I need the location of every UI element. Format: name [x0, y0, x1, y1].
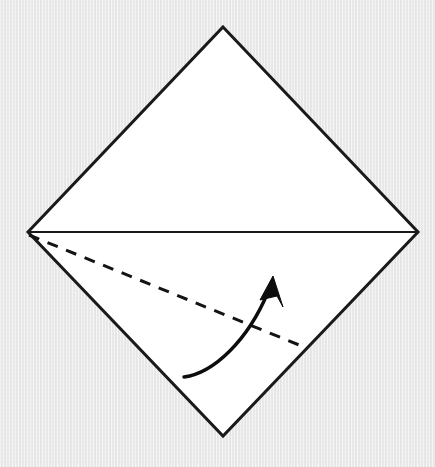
origami-diagram-canvas [0, 0, 435, 467]
origami-figure-svg [0, 0, 435, 467]
